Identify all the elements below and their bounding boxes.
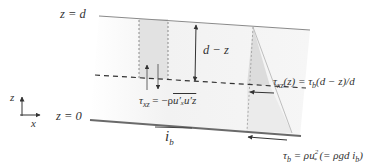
label-z-equals-d: z = d	[60, 8, 86, 21]
label-d-minus-z: d − z	[203, 44, 229, 57]
fluid-column	[139, 19, 168, 79]
label-bed-stress: τb = ρu2* (= ρgd ib)	[283, 149, 363, 164]
label-linear-profile: τxz(z) = τb(d − z)/d	[273, 76, 355, 90]
bed-stress-arrow	[248, 137, 287, 140]
label-axis-z: z	[10, 92, 14, 103]
label-reynolds-stress: τxz = −ρu′ₓu′z	[139, 95, 196, 109]
label-slope: ib	[165, 129, 174, 147]
label-axis-x: x	[31, 118, 36, 129]
label-z-equals-0: z = 0	[56, 110, 82, 123]
